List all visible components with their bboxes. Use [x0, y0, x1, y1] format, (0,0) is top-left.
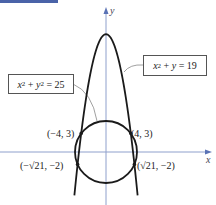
parabola-leader-line: [124, 65, 143, 72]
eq-rhs: = 25: [44, 79, 65, 90]
point-label-neg4-3: (−4, 3): [47, 128, 74, 140]
point-label-negsqrt21-neg2: (−√21, −2): [20, 160, 63, 172]
y-axis-arrow-icon: [104, 7, 109, 14]
point-neg4-3: [79, 132, 83, 136]
y-axis-label: y: [109, 5, 115, 16]
point-label-sqrt21-neg2: (√21, −2): [137, 160, 175, 172]
parabola-equation-label: x2 + y = 19: [143, 55, 207, 76]
eq-plus: +: [25, 79, 36, 90]
circle-equation-label: x2 + y2 = 25: [8, 74, 74, 94]
point-label-4-3: (4, 3): [131, 128, 153, 140]
eq-plus: +: [161, 60, 172, 71]
x-axis-label: x: [205, 154, 211, 165]
point-sqrt21-neg2: [133, 163, 137, 167]
eq-rhs: = 19: [176, 60, 197, 71]
graph: y x (−4, 3) (4, 3) (−√21, −2) (√21, −2): [0, 0, 216, 205]
point-negsqrt21-neg2: [76, 163, 80, 167]
